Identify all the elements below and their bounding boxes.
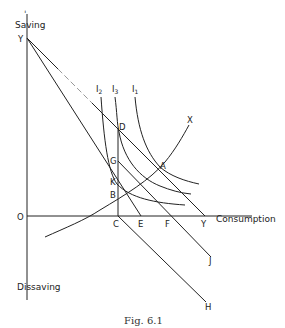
point-B: B: [110, 190, 116, 200]
point-J: J: [208, 256, 212, 266]
label-I3: I3: [112, 84, 119, 95]
point-X: X: [187, 115, 193, 125]
y-axis-label-dissaving: Dissaving: [17, 282, 61, 292]
x-axis-label-consumption: Consumption: [216, 214, 276, 224]
point-K: K: [110, 177, 116, 187]
indifference-curve-I2: [101, 97, 185, 205]
point-H: H: [205, 302, 211, 312]
indifference-curve-I3: [115, 97, 191, 194]
point-E: E: [138, 219, 143, 229]
indifference-curve-I1: [135, 97, 199, 184]
point-C: C: [113, 219, 119, 229]
line-C-H: [118, 216, 206, 302]
label-I1: I1: [132, 84, 139, 95]
point-A: A: [160, 161, 166, 171]
point-Y-vertical: Y: [17, 34, 24, 44]
point-Y-horizontal: Y: [200, 219, 207, 229]
saving-consumption-diagram: ˈ Saving Dissaving Consumption O Y Y D G…: [0, 0, 285, 328]
point-G: G: [110, 156, 117, 166]
y-axis-tick-mark: ˈ: [24, 9, 26, 19]
line-Y-Y-faint: [58, 69, 92, 103]
point-F: F: [165, 219, 170, 229]
label-I2: I2: [96, 84, 103, 95]
y-axis-label-saving: Saving: [15, 20, 45, 30]
point-D: D: [119, 122, 126, 132]
origin-label: O: [17, 212, 24, 222]
line-Y-Y-upper: [27, 38, 58, 69]
figure-caption: Fig. 6.1: [124, 315, 163, 326]
